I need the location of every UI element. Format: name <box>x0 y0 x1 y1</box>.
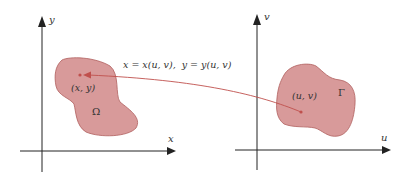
point-uv-label: (u, v) <box>292 90 317 101</box>
y-axis-label: y <box>48 14 55 25</box>
y-axis-arrow-icon <box>38 16 46 27</box>
v-axis-label: v <box>264 11 270 22</box>
x-axis-label: x <box>168 133 174 144</box>
x-axis-arrow-icon <box>167 147 176 155</box>
u-axis-arrow-icon <box>382 146 391 154</box>
point-xy-label: (x, y) <box>71 82 95 93</box>
mapping-equation: x = x(u, v), y = y(u, v) <box>123 59 232 70</box>
u-axis-label: u <box>381 132 387 143</box>
region-omega-label: Ω <box>92 106 100 117</box>
region-gamma-label: Γ <box>338 87 345 98</box>
v-axis-arrow-icon <box>253 14 261 25</box>
change-of-variables-diagram: y x (x, y) Ω v u (u, v) Γ x = x(u, v), y… <box>0 0 405 174</box>
point-xy <box>78 73 81 76</box>
